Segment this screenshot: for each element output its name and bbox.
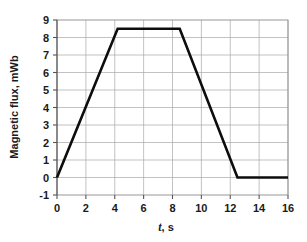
magnetic-flux-chart: -10123456789 0246810121416 Magnetic flux… [0, 0, 307, 242]
y-tick-label: 9 [43, 14, 49, 26]
x-tick-label: 8 [169, 202, 175, 214]
y-tick-label: -1 [39, 189, 49, 201]
y-tick-label: 8 [43, 32, 49, 44]
y-tick-label: 3 [43, 119, 49, 131]
x-tick-label: 2 [83, 202, 89, 214]
y-tick-label: 1 [43, 154, 49, 166]
x-tick-label: 14 [253, 202, 266, 214]
y-tick-label: 0 [43, 172, 49, 184]
x-tick-label: 6 [141, 202, 147, 214]
x-tick-label: 12 [224, 202, 236, 214]
y-tick-label: 7 [43, 49, 49, 61]
y-tick-label: 2 [43, 137, 49, 149]
x-tick-label: 0 [54, 202, 60, 214]
y-tick-label: 5 [43, 84, 49, 96]
x-tick-label: 16 [282, 202, 294, 214]
y-tick-label: 6 [43, 67, 49, 79]
chart-container: -10123456789 0246810121416 Magnetic flux… [0, 0, 307, 242]
x-axis-title: t, s [158, 220, 174, 234]
y-tick-label: 4 [43, 102, 50, 114]
y-axis-title: Magnetic flux, mWb [8, 55, 20, 159]
x-axis-title-unit: , s [162, 221, 174, 233]
x-tick-label: 4 [112, 202, 119, 214]
x-tick-label: 10 [195, 202, 207, 214]
